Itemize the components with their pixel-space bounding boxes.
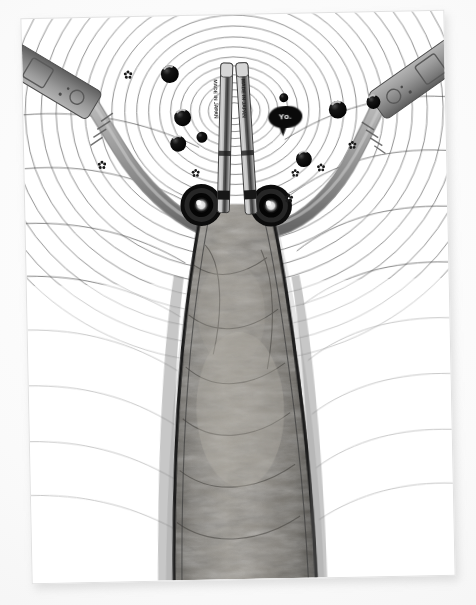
artwork-illustration (21, 11, 454, 583)
orb (161, 65, 179, 83)
paper-sheet: MADE IN JAPAN MADE IN JAPAN Yo. (20, 10, 455, 584)
connector-right (368, 11, 455, 120)
antenna-right-label: MADE IN JAPAN (241, 79, 248, 118)
orb (296, 151, 312, 167)
speech-bubble-text: Yo. (279, 113, 292, 122)
orb (174, 109, 191, 126)
antenna-left-label: MADE IN JAPAN (213, 79, 220, 118)
artwork-canvas: MADE IN JAPAN MADE IN JAPAN Yo. USB Crea… (0, 0, 476, 605)
flower-icon (98, 161, 107, 169)
orb (196, 132, 207, 143)
orb (170, 136, 186, 152)
flower-icon (124, 70, 133, 78)
flower-icon (192, 169, 200, 177)
flower-icon (317, 164, 325, 172)
flower-icon (291, 169, 299, 176)
paper-surface: MADE IN JAPAN MADE IN JAPAN Yo. (20, 10, 455, 584)
speech-bubble-tail (278, 126, 287, 137)
